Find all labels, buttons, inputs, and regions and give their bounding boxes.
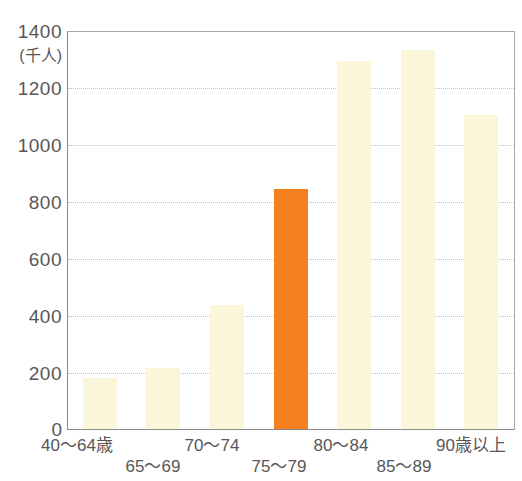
bar-80-84[interactable] <box>337 61 371 429</box>
bar-70-74[interactable] <box>210 305 244 430</box>
x-tick-label-80-84: 80〜84 <box>296 436 386 455</box>
bars-layer <box>68 32 514 429</box>
x-tick-label-90-plus: 90歳以上 <box>421 436 521 455</box>
y-tick-label-1200: 1200 <box>0 79 62 98</box>
x-tick-label-70-74: 70〜74 <box>167 436 257 455</box>
bar-90-plus[interactable] <box>464 115 498 429</box>
bar-75-79[interactable] <box>274 189 308 429</box>
x-axis: 40〜64歳 65〜69 70〜74 75〜79 80〜84 85〜89 90歳… <box>0 430 522 481</box>
x-tick-label-85-89: 85〜89 <box>359 457 449 476</box>
plot-area <box>67 31 515 430</box>
bar-chart: 1400 (千人) 1200 1000 800 600 400 200 0 40… <box>0 0 522 481</box>
y-tick-label-600: 600 <box>0 250 62 269</box>
x-tick-label-40-64: 40〜64歳 <box>22 436 132 455</box>
y-tick-label-1000: 1000 <box>0 136 62 155</box>
bar-85-89[interactable] <box>401 50 435 429</box>
y-tick-label-400: 400 <box>0 307 62 326</box>
y-tick-label-200: 200 <box>0 364 62 383</box>
x-tick-label-75-79: 75〜79 <box>234 457 324 476</box>
bar-40-64[interactable] <box>83 378 117 429</box>
y-tick-label-800: 800 <box>0 193 62 212</box>
y-axis: 1400 (千人) 1200 1000 800 600 400 200 <box>0 0 62 481</box>
y-axis-unit-label: (千人) <box>0 48 62 64</box>
y-tick-label-1400: 1400 <box>0 22 62 41</box>
x-tick-label-65-69: 65〜69 <box>108 457 198 476</box>
bar-65-69[interactable] <box>146 368 180 429</box>
